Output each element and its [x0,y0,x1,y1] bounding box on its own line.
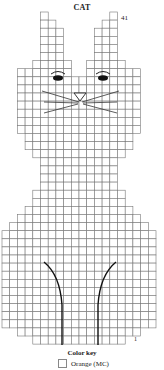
chart-cell [125,263,133,271]
chart-cell [71,134,79,142]
chart-cell [110,336,118,344]
chart-cell [87,279,95,287]
chart-cell [110,158,118,166]
chart-cell [25,247,33,255]
chart-cell [17,125,25,133]
chart-cell [87,190,95,198]
chart-cell [41,328,49,336]
chart-cell [118,255,126,263]
chart-cell [87,142,95,150]
chart-cell [87,61,95,69]
chart-cell [48,328,56,336]
chart-cell [110,77,118,85]
chart-cell [25,304,33,312]
chart-cell [94,53,102,61]
chart-cell [41,125,49,133]
chart-cell [87,166,95,174]
chart-cell [48,190,56,198]
chart-cell [118,279,126,287]
chart-cell [148,279,156,287]
chart-cell [118,206,126,214]
chart-cell [48,142,56,150]
chart-cell [17,69,25,77]
chart-cell [79,255,87,263]
chart-cell [94,61,102,69]
chart-cell [102,44,110,52]
chart-cell [110,117,118,125]
chart-cell [118,271,126,279]
chart-cell [71,287,79,295]
chart-cell [17,287,25,295]
chart-cell [48,166,56,174]
chart-cell [110,12,118,20]
chart-cell [17,109,25,117]
chart-cell [56,166,64,174]
chart-cell [25,296,33,304]
chart-cell [94,247,102,255]
chart-cell [133,69,141,77]
chart-cell [110,328,118,336]
chart-cell [141,279,149,287]
chart-cell [148,255,156,263]
chart-cell [33,117,41,125]
chart-cell [87,263,95,271]
chart-cell [64,109,72,117]
chart-cell [79,101,87,109]
chart-cell [87,255,95,263]
chart-cell [64,134,72,142]
chart-cell [110,182,118,190]
chart-cell [71,158,79,166]
chart-cell [94,239,102,247]
chart-cell [102,312,110,320]
chart-cell [10,223,18,231]
chart-cell [133,279,141,287]
chart-cell [10,247,18,255]
chart-cell [102,304,110,312]
chart-cell [41,223,49,231]
chart-cell [17,255,25,263]
chart-cell [64,198,72,206]
chart-cell [64,247,72,255]
chart-cell [71,320,79,328]
chart-cell [33,320,41,328]
chart-cell [17,77,25,85]
chart-cell [133,263,141,271]
chart-cell [64,271,72,279]
chart-cell [25,206,33,214]
chart-cell [41,44,49,52]
chart-cell [133,320,141,328]
chart-cell [41,320,49,328]
chart-cell [25,85,33,93]
chart-cell [56,263,64,271]
chart-cell [102,320,110,328]
chart-cell [102,223,110,231]
chart-cell [48,85,56,93]
chart-cell [17,247,25,255]
chart-cell [56,117,64,125]
chart-cell [48,20,56,28]
chart-cell [141,255,149,263]
chart-cell [118,247,126,255]
chart-cell [79,271,87,279]
chart-cell [148,263,156,271]
chart-cell [10,296,18,304]
chart-cell [102,190,110,198]
chart-cell [148,239,156,247]
chart-cell [71,279,79,287]
chart-cell [118,239,126,247]
chart-cell [141,239,149,247]
chart-cell [79,77,87,85]
chart-cell [87,117,95,125]
chart-cell [102,117,110,125]
chart-cell [2,287,10,295]
chart-cell [64,158,72,166]
chart-cell [87,85,95,93]
chart-cell [17,239,25,247]
chart-cell [87,206,95,214]
chart-cell [110,247,118,255]
chart-cell [102,134,110,142]
chart-cell [79,117,87,125]
chart-cell [48,61,56,69]
chart-cell [48,158,56,166]
chart-cell [41,215,49,223]
